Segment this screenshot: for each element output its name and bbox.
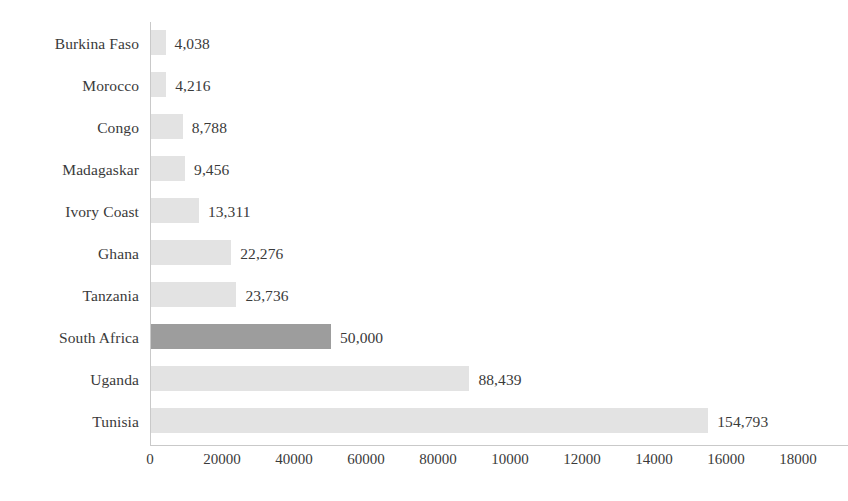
x-axis-tick-labels: 0200004000060000800001000012000140001600…: [150, 452, 848, 482]
category-label: Uganda: [0, 372, 139, 388]
category-label: Congo: [0, 120, 139, 136]
category-label: South Africa: [0, 330, 139, 346]
bar: [151, 156, 185, 181]
bar: [151, 72, 166, 97]
bar: [151, 282, 236, 307]
category-axis-labels: Burkina FasoMoroccoCongoMadagaskarIvory …: [0, 22, 145, 446]
bar: [151, 114, 183, 139]
x-tick-label: 0: [146, 452, 154, 467]
category-label: Burkina Faso: [0, 36, 139, 52]
x-tick-label: 80000: [419, 452, 457, 467]
category-label: Morocco: [0, 78, 139, 94]
x-tick-label: 40000: [275, 452, 313, 467]
bar: [151, 366, 469, 391]
bar-chart: Burkina FasoMoroccoCongoMadagaskarIvory …: [0, 0, 848, 501]
bar-value-label: 9,456: [194, 162, 229, 178]
x-tick-label: 60000: [347, 452, 385, 467]
category-label: Tanzania: [0, 288, 139, 304]
bar: [151, 198, 199, 223]
category-label: Tunisia: [0, 414, 139, 430]
bar-value-label: 154,793: [717, 414, 768, 430]
x-tick-label: 20000: [203, 452, 241, 467]
x-tick-label: 14000: [635, 452, 673, 467]
bar-value-label: 8,788: [192, 120, 227, 136]
bar-value-label: 22,276: [240, 246, 283, 262]
bar: [151, 324, 331, 349]
plot-area: 4,0384,2168,7889,45613,31122,27623,73650…: [150, 22, 848, 446]
category-label: Ghana: [0, 246, 139, 262]
bar-value-label: 23,736: [245, 288, 288, 304]
bar-value-label: 88,439: [478, 372, 521, 388]
bar: [151, 240, 231, 265]
bar: [151, 30, 166, 55]
x-tick-label: 18000: [779, 452, 817, 467]
category-label: Madagaskar: [0, 162, 139, 178]
bar-value-label: 50,000: [340, 330, 383, 346]
x-tick-label: 10000: [491, 452, 529, 467]
bar-value-label: 13,311: [208, 204, 251, 220]
bar: [151, 408, 708, 433]
bar-value-label: 4,038: [175, 36, 210, 52]
x-tick-label: 16000: [707, 452, 745, 467]
x-axis-line: [150, 445, 848, 446]
category-label: Ivory Coast: [0, 204, 139, 220]
bar-value-label: 4,216: [175, 78, 210, 94]
x-tick-label: 12000: [563, 452, 601, 467]
